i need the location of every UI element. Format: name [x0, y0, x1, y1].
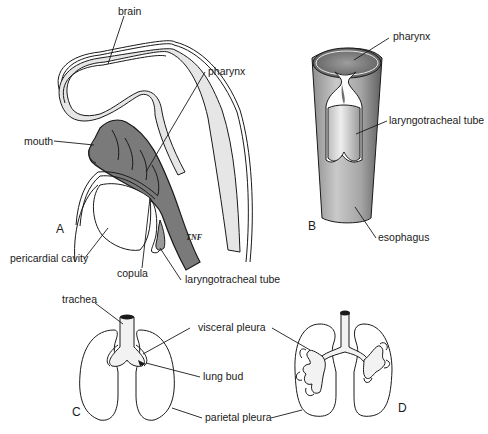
label-pharynx-a: pharynx: [208, 65, 246, 77]
laryngotracheal-tube: [328, 105, 360, 161]
label-visceral-pleura: visceral pleura: [198, 321, 266, 333]
right-bronchial-tree: [364, 346, 386, 379]
embryology-figure: TNF A brain pharynx mouth pericardial ca…: [0, 0, 488, 434]
panel-c: C trachea visceral pleura lung bud parie…: [62, 293, 302, 423]
panel-d: D: [272, 311, 407, 417]
label-esophagus: esophagus: [378, 231, 429, 243]
panel-letter-d: D: [398, 401, 407, 415]
label-parietal-pleura: parietal pleura: [205, 411, 272, 423]
label-lung-bud: lung bud: [203, 370, 243, 382]
label-brain: brain: [118, 5, 142, 17]
panel-letter-a: A: [56, 222, 64, 236]
pharynx-opening: [313, 48, 381, 78]
label-pharynx-b: pharynx: [393, 30, 431, 42]
label-laryngotracheal-tube-a: laryngotracheal tube: [185, 273, 280, 285]
panel-a: TNF A brain pharynx mouth pericardial ca…: [10, 5, 280, 285]
pericardial-cavity: [93, 184, 150, 251]
trachea-d: [322, 313, 367, 362]
panel-letter-c: C: [72, 405, 81, 419]
trachea-c: [110, 317, 145, 366]
artist-signature: TNF: [186, 233, 203, 242]
right-pleural-cavity: [136, 330, 174, 420]
panel-b: B pharynx laryngotracheal tube esophagus: [308, 30, 484, 243]
label-pericardial-cavity: pericardial cavity: [10, 252, 89, 264]
label-mouth: mouth: [24, 135, 53, 147]
left-pleural-cavity: [80, 330, 118, 420]
panel-letter-b: B: [308, 219, 316, 233]
label-copula: copula: [117, 267, 148, 279]
left-bronchial-tree: [303, 350, 325, 393]
label-laryngotracheal-tube-b: laryngotracheal tube: [389, 114, 484, 126]
label-trachea: trachea: [62, 293, 97, 305]
